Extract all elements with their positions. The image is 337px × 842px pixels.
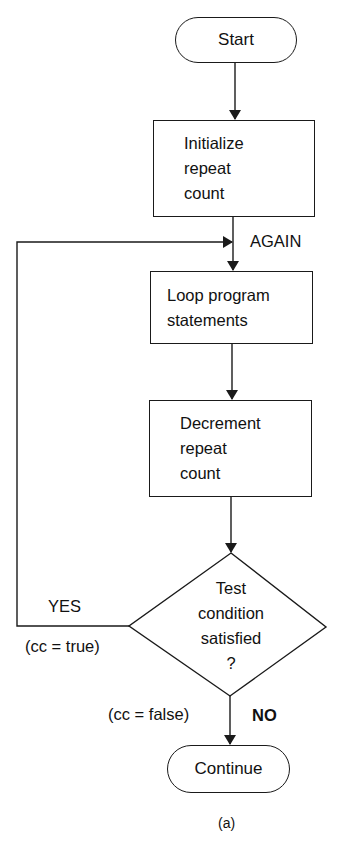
yes-label: YES [48, 597, 81, 616]
test-condition-text: Test condition satisfied ? [171, 576, 291, 676]
no-label: NO [252, 706, 277, 725]
decrement-line-2: repeat [180, 436, 227, 461]
loop-line-2: statements [167, 308, 248, 333]
initialize-line-1: Initialize [184, 131, 244, 156]
initialize-line-3: count [184, 181, 224, 206]
decrement-process-box: Decrement repeat count [149, 400, 312, 497]
test-line-2: condition [171, 601, 291, 626]
start-label: Start [218, 30, 254, 50]
continue-terminal: Continue [167, 745, 290, 793]
decrement-line-3: count [180, 461, 220, 486]
test-line-3: satisfied [171, 626, 291, 651]
initialize-line-2: repeat [184, 156, 231, 181]
again-label: AGAIN [250, 232, 301, 251]
start-terminal: Start [175, 17, 297, 63]
test-line-1: Test [171, 576, 291, 601]
yes-condition-label: (cc = true) [25, 637, 100, 656]
loop-statements-process-box: Loop program statements [150, 271, 313, 344]
loop-line-1: Loop program [167, 283, 270, 308]
test-line-4: ? [171, 651, 291, 676]
decrement-line-1: Decrement [180, 411, 261, 436]
no-condition-label: (cc = false) [108, 705, 189, 724]
figure-caption: (a) [218, 815, 235, 831]
initialize-process-box: Initialize repeat count [153, 120, 315, 217]
continue-label: Continue [194, 759, 262, 779]
